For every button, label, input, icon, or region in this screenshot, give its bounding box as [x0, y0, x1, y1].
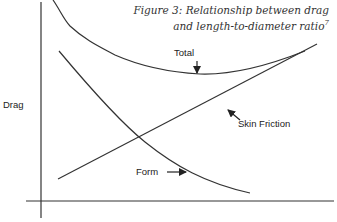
- caption-line-2: and length-to-diameter ratio: [173, 20, 324, 32]
- caption-superscript: 7: [325, 19, 329, 27]
- form-label: Form: [136, 166, 158, 177]
- y-axis-label: Drag: [3, 99, 24, 110]
- skin-friction-line: [58, 44, 317, 179]
- drag-chart: [0, 0, 337, 222]
- caption-line-1: Figure 3: Relationship between drag: [129, 4, 329, 17]
- total-label: Total: [174, 47, 194, 58]
- skin-friction-label: Skin Friction: [238, 118, 290, 129]
- figure-caption: Figure 3: Relationship between drag and …: [129, 4, 329, 33]
